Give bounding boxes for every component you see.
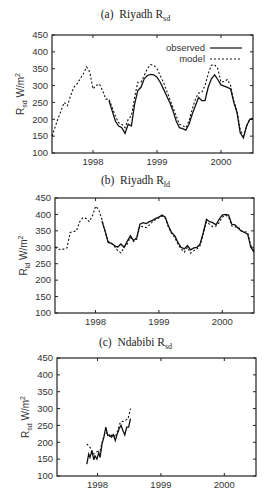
y-axis-label: Rld W/m2 bbox=[17, 235, 31, 275]
y-axis-label: Rsd W/m2 bbox=[14, 73, 28, 115]
y-tick-label: 150 bbox=[35, 291, 51, 302]
y-tick-label: 450 bbox=[35, 192, 51, 203]
x-tick-label: 1999 bbox=[150, 479, 171, 490]
observed-line bbox=[109, 74, 253, 137]
legend: observedmodel bbox=[166, 42, 242, 64]
y-tick-label: 150 bbox=[37, 453, 53, 464]
y-tick-label: 400 bbox=[35, 209, 51, 220]
plot-b: 100150200250300350400450199819992000Rld … bbox=[17, 192, 254, 327]
y-tick-label: 250 bbox=[32, 97, 48, 108]
y-tick-label: 350 bbox=[35, 225, 51, 236]
y-tick-label: 400 bbox=[37, 369, 53, 380]
x-tick-label: 1999 bbox=[148, 316, 169, 327]
y-tick-label: 300 bbox=[37, 403, 53, 414]
plot-c: 100150200250300350400450199819992000Rsd … bbox=[19, 352, 256, 490]
plot-frame bbox=[52, 35, 253, 153]
y-tick-label: 350 bbox=[37, 386, 53, 397]
legend-observed-label: observed bbox=[166, 42, 205, 53]
x-tick-label: 1998 bbox=[82, 156, 103, 167]
y-tick-label: 300 bbox=[32, 80, 48, 91]
y-tick-label: 250 bbox=[37, 420, 53, 431]
y-tick-label: 400 bbox=[32, 46, 48, 57]
x-tick-label: 1998 bbox=[87, 479, 108, 490]
x-tick-label: 1999 bbox=[146, 156, 167, 167]
y-tick-label: 150 bbox=[32, 130, 48, 141]
plot-frame bbox=[57, 358, 256, 476]
x-tick-label: 2000 bbox=[210, 156, 231, 167]
chart-canvas: 100150200250300350400450199819992000Rsd … bbox=[0, 0, 271, 503]
legend-model-label: model bbox=[179, 53, 205, 64]
y-tick-label: 250 bbox=[35, 258, 51, 269]
y-tick-label: 100 bbox=[35, 307, 51, 318]
model-line bbox=[52, 65, 253, 136]
y-tick-label: 100 bbox=[32, 147, 48, 158]
y-tick-label: 200 bbox=[35, 274, 51, 285]
model-line bbox=[55, 206, 254, 253]
x-tick-label: 1998 bbox=[85, 316, 106, 327]
x-tick-label: 2000 bbox=[214, 479, 235, 490]
y-tick-label: 450 bbox=[32, 29, 48, 40]
y-tick-label: 350 bbox=[32, 63, 48, 74]
y-tick-label: 300 bbox=[35, 242, 51, 253]
y-axis-label: Rsd W/m2 bbox=[19, 396, 33, 438]
x-tick-label: 2000 bbox=[212, 316, 233, 327]
y-tick-label: 200 bbox=[32, 114, 48, 125]
observed-line bbox=[87, 419, 131, 465]
y-tick-label: 200 bbox=[37, 437, 53, 448]
y-tick-label: 450 bbox=[37, 352, 53, 363]
plot-a: 100150200250300350400450199819992000Rsd … bbox=[14, 29, 253, 167]
y-tick-label: 100 bbox=[37, 470, 53, 481]
